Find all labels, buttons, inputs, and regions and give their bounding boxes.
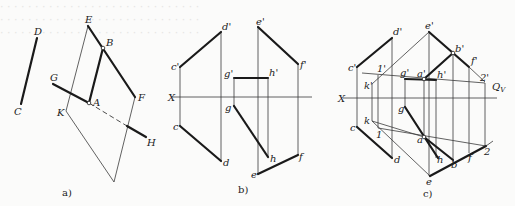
line-g-h-prime [405,79,436,80]
label-D: D [33,26,42,37]
label-g-prime: g' [400,67,409,78]
label-d: d [223,157,229,168]
label-a-prime: a' [417,68,426,79]
point-b [101,46,105,50]
caption-c: c) [423,188,433,199]
label-k-prime: k' [364,80,373,91]
label-h-prime: h' [269,67,278,78]
label-d: d [394,154,400,165]
line-e-f-prime [258,27,298,64]
label-F: F [137,92,146,103]
label-c-prime: c' [348,62,356,73]
line-c-d-prime [357,38,392,67]
label-g: g [398,103,404,114]
label-b-prime: b' [455,43,464,54]
label-e: e [251,169,257,180]
line-c-d-prime [180,32,221,67]
label-f-prime: f' [299,59,306,70]
label-c: c [350,122,356,133]
label-h-prime: h' [437,69,446,80]
label-1-prime: 1' [377,63,386,74]
label-e-prime: e' [256,16,265,27]
label-f-prime: f' [470,55,477,66]
axis-label-x: X [167,92,176,103]
label-b: b [451,159,457,170]
label-K: K [56,107,65,118]
label-g: g [225,102,231,113]
point-a [87,101,91,105]
label-e-prime: e' [425,20,434,31]
label-d-prime: d' [222,21,231,32]
panel-a: D C E B G A F K H a) [14,14,156,198]
label-a: a [417,134,423,145]
line-ah-visible [127,126,146,137]
label-B: B [105,37,113,48]
label-qv: QV [492,81,506,94]
line-ga [53,84,89,103]
line-cd [21,38,37,104]
label-2: 2 [483,146,490,157]
line-cd-horizontal [357,127,392,158]
line-ef-horizontal [258,155,298,174]
label-2-prime: 2' [479,72,489,83]
caption-b: b) [238,184,248,195]
line-cd-horizontal [180,126,221,161]
plane-outline [66,26,135,182]
label-A: A [92,97,100,108]
label-1: 1 [376,129,382,140]
label-g-prime: g' [224,68,233,79]
projection-diagram: D C E B G A F K H a) X d' c' c d e' f' [0,0,515,206]
label-G: G [50,72,58,83]
label-h: h [270,153,276,164]
line-gh-horizontal [234,106,268,157]
label-h: h [437,154,443,165]
line-ab [89,48,103,103]
label-e: e [426,176,432,187]
panel-b: X d' c' c d e' f' g' h' g h e f b) [167,16,312,195]
label-C: C [14,106,22,117]
label-k: k [364,115,370,126]
axis-label-x: X [337,93,346,104]
label-c: c [173,121,179,132]
label-d-prime: d' [393,26,402,37]
label-c-prime: c' [171,61,179,72]
caption-a: a) [62,187,72,198]
label-f: f [298,151,305,162]
label-E: E [84,14,93,25]
label-H: H [146,137,156,148]
panel-c: X d' e' [337,20,506,199]
